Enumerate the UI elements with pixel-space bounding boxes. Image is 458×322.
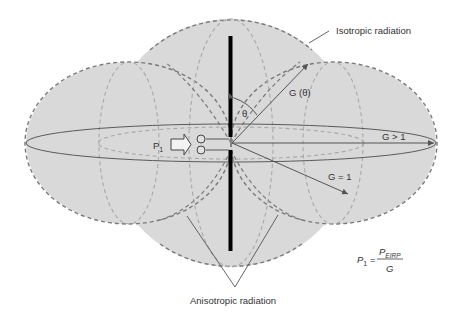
formula-lhs: P1 [357, 254, 367, 267]
theta-label: θ [242, 108, 247, 119]
g-theta-label: G (θ) [289, 87, 311, 98]
formula-denominator: G [386, 263, 393, 274]
g-gt1-label: G > 1 [382, 131, 406, 142]
anisotropic-radiation-label: Anisotropic radiation [190, 295, 276, 306]
formula-equals: = [370, 254, 376, 265]
eirp-formula: P1 = PEIRP G [357, 246, 403, 274]
feed-terminal-top [197, 135, 205, 143]
isotropic-radiation-label: Isotropic radiation [336, 25, 411, 36]
g-eq1-label: G = 1 [328, 171, 352, 182]
isotropic-leader-line [309, 31, 329, 43]
formula-numerator: PEIRP [379, 246, 401, 259]
antenna-radiation-diagram: P1 θ G (θ) G > 1 G = 1 Isotropic radiati… [0, 0, 458, 322]
antenna-upper-arm [229, 36, 233, 137]
feed-terminal-bottom [197, 146, 205, 154]
antenna-lower-arm [229, 150, 233, 251]
